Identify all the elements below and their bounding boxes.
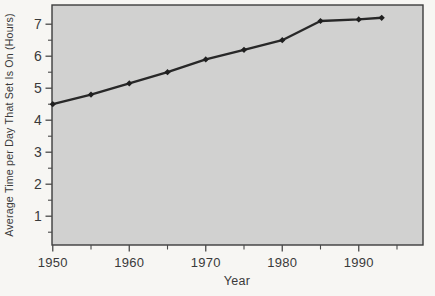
chart-canvas: 765432119501960197019801990 Year Average… — [0, 0, 435, 296]
y-tick-label: 2 — [34, 176, 42, 192]
x-tick-label: 1990 — [344, 255, 374, 270]
y-tick-label: 5 — [34, 80, 42, 96]
y-tick-label: 6 — [34, 48, 42, 64]
y-tick-label: 1 — [34, 208, 42, 224]
y-tick-label: 7 — [34, 16, 42, 32]
y-tick-label: 3 — [34, 144, 42, 160]
x-tick-label: 1970 — [191, 255, 221, 270]
x-axis-title: Year — [224, 274, 250, 288]
x-tick-label: 1950 — [38, 255, 68, 270]
x-tick-label: 1960 — [114, 255, 144, 270]
x-tick-label: 1980 — [267, 255, 297, 270]
tv-usage-line-chart-figure: 765432119501960197019801990 Year Average… — [0, 0, 435, 296]
plot-area — [52, 5, 423, 245]
y-axis-title: Average Time per Day That Set Is On (Hou… — [3, 13, 15, 237]
y-tick-label: 4 — [34, 112, 42, 128]
